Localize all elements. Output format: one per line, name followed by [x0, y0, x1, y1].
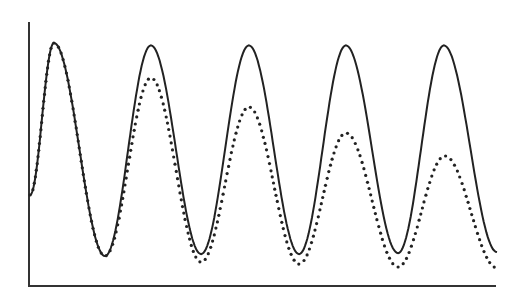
data-point — [209, 246, 212, 249]
data-point — [217, 214, 220, 217]
data-point — [105, 254, 108, 257]
data-point — [397, 265, 400, 268]
data-point — [41, 107, 44, 110]
data-point — [139, 96, 142, 99]
data-point — [111, 243, 114, 246]
data-point — [222, 193, 225, 196]
data-point — [90, 220, 93, 223]
data-point — [116, 223, 119, 226]
data-point — [133, 129, 136, 132]
data-point — [482, 250, 485, 253]
data-point — [126, 170, 129, 173]
data-point — [162, 102, 165, 105]
data-point — [453, 164, 456, 167]
data-point — [131, 135, 134, 138]
data-point — [165, 115, 168, 118]
data-point — [402, 262, 405, 265]
data-point — [422, 200, 425, 203]
data-point — [266, 155, 269, 158]
data-point — [118, 217, 121, 220]
data-point — [306, 253, 309, 256]
data-point — [256, 116, 259, 119]
data-point — [188, 238, 191, 241]
data-point — [356, 148, 359, 151]
data-point — [332, 151, 335, 154]
data-point — [228, 158, 231, 161]
data-point — [52, 41, 55, 44]
data-point — [456, 170, 459, 173]
data-point — [84, 186, 87, 189]
data-point — [141, 89, 144, 92]
data-point — [121, 197, 124, 200]
data-point — [187, 232, 190, 235]
data-point — [435, 163, 438, 166]
data-point — [40, 121, 43, 124]
data-point — [86, 199, 89, 202]
data-point — [317, 215, 320, 218]
data-point — [405, 257, 408, 260]
data-point — [194, 256, 197, 259]
data-point — [182, 212, 185, 215]
data-point — [178, 191, 181, 194]
data-point — [371, 200, 374, 203]
data-point — [45, 73, 48, 76]
data-point — [78, 146, 81, 149]
data-point — [115, 230, 118, 233]
data-point — [354, 142, 357, 145]
data-point — [36, 162, 39, 165]
data-point — [47, 60, 50, 63]
data-point — [158, 89, 161, 92]
data-point — [226, 172, 229, 175]
data-point — [315, 222, 318, 225]
data-point — [134, 122, 137, 125]
data-point — [472, 219, 475, 222]
data-point — [128, 156, 131, 159]
data-point — [207, 252, 210, 255]
data-point — [46, 66, 49, 69]
data-point — [28, 193, 31, 196]
data-point — [276, 200, 279, 203]
data-point — [468, 207, 471, 210]
data-point — [297, 263, 300, 266]
data-point — [160, 96, 163, 99]
data-point — [458, 175, 461, 178]
data-point — [474, 225, 477, 228]
data-point — [260, 129, 263, 132]
data-point — [70, 100, 73, 103]
data-point — [428, 181, 431, 184]
data-point — [34, 175, 37, 178]
data-point — [265, 148, 268, 151]
data-point — [152, 78, 155, 81]
data-point — [493, 266, 496, 269]
data-point — [320, 202, 323, 205]
data-point — [87, 206, 90, 209]
data-point — [293, 259, 296, 262]
data-point — [321, 196, 324, 199]
data-point — [130, 142, 133, 145]
data-point — [240, 113, 243, 116]
data-point — [180, 198, 183, 201]
data-point — [135, 115, 138, 118]
data-point — [83, 179, 86, 182]
data-point — [39, 128, 42, 131]
data-point — [176, 177, 179, 180]
data-point — [66, 79, 69, 82]
data-point — [372, 206, 375, 209]
data-point — [313, 229, 316, 232]
data-point — [439, 157, 442, 160]
data-point — [168, 135, 171, 138]
data-point — [167, 128, 170, 131]
data-point — [463, 188, 466, 191]
data-point — [75, 126, 78, 129]
data-point — [36, 155, 39, 158]
data-point — [74, 120, 77, 123]
data-point — [258, 123, 261, 126]
data-point — [127, 163, 130, 166]
data-point — [331, 158, 334, 161]
data-point — [166, 122, 169, 125]
data-point — [418, 219, 421, 222]
data-point — [183, 218, 186, 221]
data-point — [72, 107, 75, 110]
data-point — [49, 47, 52, 50]
data-point — [433, 168, 436, 171]
